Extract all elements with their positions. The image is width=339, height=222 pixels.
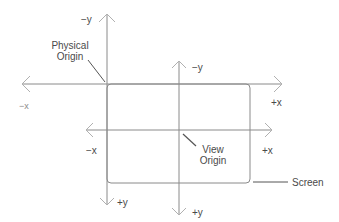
- view-origin-label-line2: Origin: [196, 155, 230, 166]
- physical-neg-y-label: −y: [81, 14, 92, 25]
- coordinate-diagram: −y +y −x +x −y +y −x +x Physical Origin …: [0, 0, 339, 222]
- physical-pos-x-label: +x: [271, 97, 282, 108]
- view-origin-leader: [183, 134, 196, 146]
- view-origin-label-line1: View: [196, 144, 230, 155]
- physical-neg-x-label: −x: [19, 101, 29, 112]
- view-neg-x-label: −x: [86, 145, 97, 156]
- physical-origin-label: Physical Origin: [45, 40, 95, 62]
- view-neg-y-label: −y: [192, 62, 203, 73]
- screen-label: Screen: [292, 177, 324, 188]
- physical-origin-label-line1: Physical: [45, 40, 95, 51]
- view-pos-y-label: +y: [192, 207, 203, 218]
- physical-origin-label-line2: Origin: [45, 51, 95, 62]
- view-origin-label: View Origin: [196, 144, 230, 166]
- physical-pos-y-label: +y: [117, 197, 128, 208]
- physical-origin-leader: [88, 60, 105, 82]
- view-pos-x-label: +x: [262, 145, 273, 156]
- diagram-graphics: [0, 0, 339, 222]
